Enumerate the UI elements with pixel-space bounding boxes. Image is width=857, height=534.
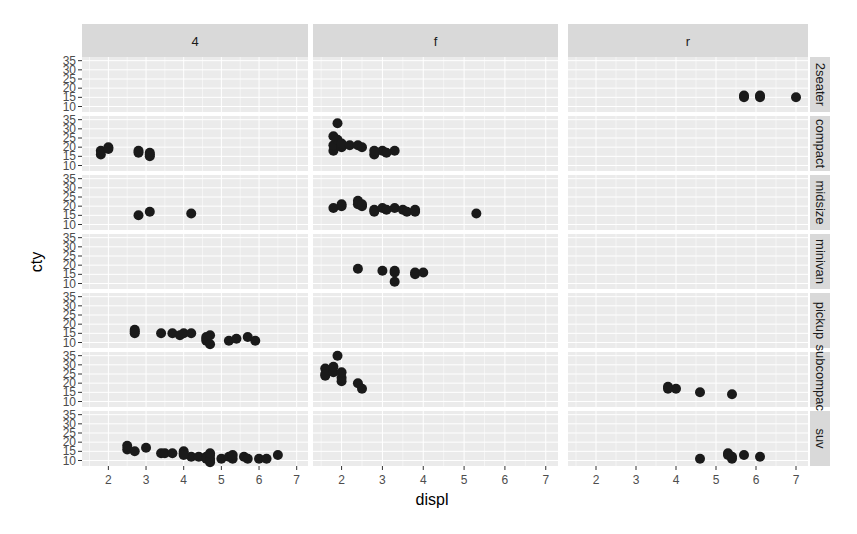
data-point	[337, 201, 347, 211]
data-point	[134, 210, 144, 220]
row-strip-label: subcompact	[813, 344, 828, 414]
x-axes: 234567234567234567	[105, 466, 800, 487]
row-strip-suv: suv	[810, 411, 830, 466]
panel-2seater-r	[568, 57, 808, 112]
col-strip-r: r	[568, 24, 808, 57]
data-point	[328, 131, 338, 141]
x-tick-label: 2	[338, 473, 345, 487]
row-strip-2seater: 2seater	[810, 57, 830, 112]
x-tick-label: 4	[420, 473, 427, 487]
panel-suv-r	[568, 411, 808, 466]
data-point	[134, 146, 144, 156]
data-point	[471, 209, 481, 219]
data-point	[337, 367, 347, 377]
row-strip-midsize: midsize	[810, 175, 830, 230]
panels	[82, 57, 808, 467]
data-point	[145, 150, 155, 160]
data-point	[382, 148, 392, 158]
panel-minivan-r	[568, 234, 808, 289]
data-point	[739, 92, 749, 102]
data-point	[273, 450, 283, 460]
data-point	[357, 199, 367, 209]
panel-2seater-f	[313, 57, 558, 112]
x-axis-r: 234567	[593, 466, 800, 487]
panel-suv-f	[313, 411, 558, 466]
row-strip-label: minivan	[813, 239, 828, 284]
x-tick-label: 4	[673, 473, 680, 487]
panel-midsize-f	[313, 175, 558, 230]
x-axis-f: 234567	[338, 466, 549, 487]
column-strips: 4fr	[82, 24, 808, 57]
y-axis-title: cty	[28, 252, 45, 272]
data-point	[186, 209, 196, 219]
x-tick-label: 6	[256, 473, 263, 487]
data-point	[739, 450, 749, 460]
data-point	[231, 334, 241, 344]
data-point	[410, 205, 420, 215]
x-tick-label: 6	[753, 473, 760, 487]
y-axis-pickup: 101520253035	[63, 290, 82, 350]
row-strip-label: midsize	[813, 180, 828, 224]
data-point	[418, 268, 428, 278]
data-point	[205, 448, 215, 458]
x-axis-4: 234567	[105, 466, 300, 487]
data-point	[205, 339, 215, 349]
y-axes: 1015202530351015202530351015202530351015…	[63, 54, 82, 468]
data-point	[328, 362, 338, 372]
data-point	[262, 454, 272, 464]
data-point	[333, 351, 343, 361]
data-point	[145, 207, 155, 217]
x-tick-label: 7	[793, 473, 800, 487]
panel-2seater-4	[82, 57, 308, 112]
panel-pickup-4	[82, 293, 308, 348]
data-point	[205, 330, 215, 340]
data-point	[228, 450, 238, 460]
data-point	[250, 336, 260, 346]
data-point	[755, 91, 765, 101]
x-tick-label: 6	[502, 473, 509, 487]
data-point	[663, 384, 673, 394]
row-strip-subcompact: subcompact	[810, 344, 830, 414]
data-point	[353, 264, 363, 274]
data-point	[103, 144, 113, 154]
x-tick-label: 5	[461, 473, 468, 487]
col-strip-label: 4	[191, 34, 198, 49]
row-strip-minivan: minivan	[810, 234, 830, 289]
y-tick-label: 35	[63, 290, 77, 304]
data-point	[390, 277, 400, 287]
x-tick-label: 7	[293, 473, 300, 487]
data-point	[179, 450, 189, 460]
col-strip-f: f	[313, 24, 558, 57]
x-tick-label: 2	[105, 473, 112, 487]
row-strip-label: pickup	[813, 302, 828, 340]
panel-subcompact-4	[82, 352, 308, 407]
data-point	[333, 118, 343, 128]
data-point	[243, 454, 253, 464]
data-point	[357, 142, 367, 152]
data-point	[695, 387, 705, 397]
y-tick-label: 35	[63, 172, 77, 186]
data-point	[369, 146, 379, 156]
col-strip-label: f	[434, 34, 438, 49]
x-tick-label: 3	[379, 473, 386, 487]
faceted-scatter-chart: 4fr 2seatercompactmidsizeminivanpickupsu…	[0, 0, 857, 534]
y-axis-compact: 101520253035	[63, 113, 82, 173]
data-point	[130, 446, 140, 456]
y-tick-label: 35	[63, 54, 77, 68]
data-point	[130, 327, 140, 337]
col-strip-4: 4	[82, 24, 308, 57]
panel-pickup-f	[313, 293, 558, 348]
x-axis-title: displ	[416, 491, 449, 508]
data-point	[755, 452, 765, 462]
panel-midsize-4	[82, 175, 308, 230]
x-tick-label: 4	[180, 473, 187, 487]
panel-minivan-4	[82, 234, 308, 289]
y-axis-2seater: 101520253035	[63, 54, 82, 114]
data-point	[357, 384, 367, 394]
data-point	[141, 443, 151, 453]
x-tick-label: 5	[218, 473, 225, 487]
row-strip-label: 2seater	[813, 63, 828, 107]
row-strip-compact: compact	[810, 116, 830, 171]
panel-subcompact-r	[568, 352, 808, 407]
data-point	[791, 92, 801, 102]
